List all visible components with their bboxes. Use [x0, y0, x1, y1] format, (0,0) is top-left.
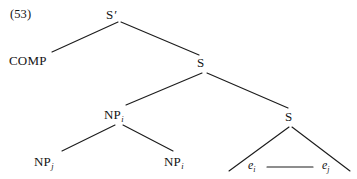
trace-right-subscript: j — [327, 165, 329, 174]
edge-np-to-npi — [123, 125, 173, 151]
node-s-upper-label: S — [197, 55, 204, 70]
node-np-left-label: NP — [34, 154, 51, 169]
node-np-right: NPi — [164, 155, 184, 168]
node-np-left: NPj — [34, 155, 54, 168]
edge-s-to-s — [207, 73, 288, 108]
node-s-upper: S — [197, 56, 204, 69]
figure-canvas: (53) S′ COMP S NPi S NPj NPi ei ej — [0, 0, 357, 179]
edge-sbar-to-comp — [52, 22, 118, 52]
node-np-upper: NPi — [104, 108, 124, 121]
prime-mark: ′ — [113, 7, 116, 22]
node-np-left-subscript: j — [51, 161, 54, 171]
node-s-lower-label: S — [285, 109, 292, 124]
trace-left: ei — [248, 159, 256, 171]
node-np-upper-subscript: i — [121, 114, 124, 124]
node-s-bar: S′ — [106, 8, 116, 21]
node-s-lower: S — [285, 110, 292, 123]
edge-triangle-left — [229, 127, 289, 171]
tree-lines — [0, 0, 357, 179]
edge-triangle-right — [292, 127, 350, 171]
node-np-right-subscript: i — [181, 161, 184, 171]
example-number: (53) — [10, 8, 31, 21]
node-np-upper-label: NP — [104, 107, 121, 122]
edge-np-to-npj — [62, 125, 115, 151]
edge-s-to-np — [126, 73, 202, 105]
trace-left-subscript: i — [253, 165, 255, 174]
node-comp-label: COMP — [9, 53, 47, 68]
edge-sbar-to-s — [121, 22, 199, 55]
node-comp: COMP — [9, 54, 47, 67]
node-np-right-label: NP — [164, 154, 181, 169]
trace-right: ej — [322, 159, 330, 171]
